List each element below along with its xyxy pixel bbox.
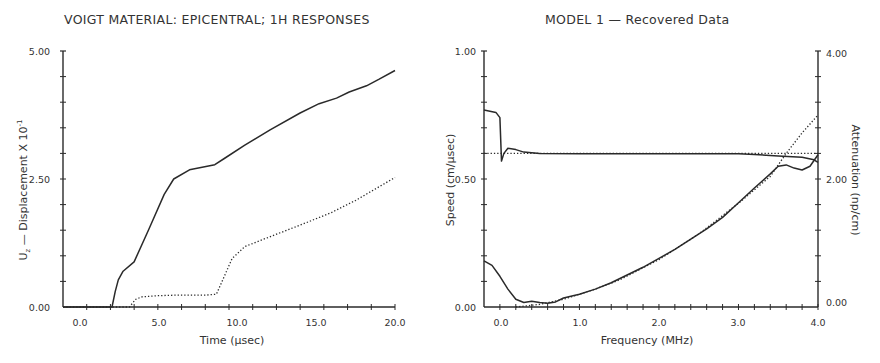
x-tick-label: 1.0 (572, 317, 587, 328)
y-axis-title-left: Speed (cm/μsec) (444, 134, 457, 227)
y-tick-label-left: 0.00 (455, 302, 476, 313)
y-tick-label: 2.50 (29, 174, 50, 185)
displacement-chart-panel: VOIGT MATERIAL: EPICENTRAL; 1H RESPONSES… (0, 0, 440, 363)
y-tick-label-right: 4.00 (826, 48, 847, 59)
y-tick-label-left: 1.00 (455, 46, 476, 57)
y-axis-title-right: Attenuation (np/cm) (849, 125, 862, 236)
y-tick-label-left: 0.50 (455, 174, 476, 185)
x-tick-label: 0.0 (72, 317, 87, 328)
x-tick-label: 3.0 (730, 317, 745, 328)
displacement-plot: 5.00 2.50 0.00 0.0 5.0 10.0 15.0 20.0 Ti… (0, 0, 440, 363)
x-tick-label: 10.0 (226, 317, 247, 328)
x-axis-title: Frequency (MHz) (601, 334, 693, 347)
axes (481, 51, 821, 310)
y-tick-label-right: 2.00 (826, 174, 847, 185)
figure-caption-cutoff (0, 352, 880, 363)
svg-text:Uz — Displacement X 10-1: Uz — Displacement X 10-1 (16, 120, 32, 261)
y-tick-label: 0.00 (29, 302, 50, 313)
y-tick-label: 5.00 (29, 46, 50, 57)
x-tick-label: 4.0 (810, 317, 825, 328)
x-tick-label: 0.0 (493, 317, 508, 328)
x-tick-label: 5.0 (151, 317, 166, 328)
y-axis-title-exp: -1 (16, 120, 24, 127)
series-solid (63, 71, 395, 308)
series-attenuation-true (516, 115, 818, 307)
recovered-data-chart-panel: MODEL 1 — Recovered Data 1.00 0.50 0.00 … (440, 0, 880, 363)
series-speed-recovered (484, 110, 818, 162)
y-axis-title-main: U (17, 252, 30, 260)
x-tick-label: 2.0 (651, 317, 666, 328)
series-dotted (63, 178, 395, 308)
series-attenuation-recovered (484, 155, 818, 304)
series-lines (63, 71, 395, 308)
series-lines (484, 110, 818, 307)
x-axis-title: Time (μsec) (199, 334, 265, 347)
x-tick-label: 20.0 (384, 317, 405, 328)
x-tick-label: 15.0 (305, 317, 326, 328)
recovered-data-plot: 1.00 0.50 0.00 4.00 2.00 0.00 0.0 1.0 2.… (440, 0, 880, 363)
y-tick-label-right: 0.00 (826, 297, 847, 308)
axes (60, 51, 395, 310)
y-axis-title: Uz — Displacement X 10-1 (16, 120, 32, 261)
y-axis-title-rest: — Displacement X 10 (17, 127, 30, 249)
